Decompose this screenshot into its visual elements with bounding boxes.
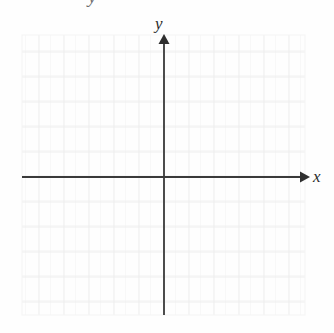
y-axis	[159, 34, 170, 315]
graph-page: y	[0, 0, 334, 333]
axes	[0, 0, 334, 333]
x-axis-label: x	[313, 168, 321, 185]
x-axis	[22, 172, 310, 183]
y-axis-label: y	[155, 15, 163, 32]
